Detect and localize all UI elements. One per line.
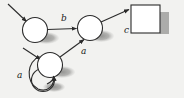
edge-label-a-mid: a	[81, 46, 86, 56]
node-q3[interactable]	[38, 53, 63, 78]
state-diagram-figure: b a a c	[0, 0, 184, 98]
edge-label-c: c	[124, 25, 129, 35]
edge-label-b: b	[61, 13, 67, 23]
edge-label-a-loop: a	[17, 70, 22, 80]
diagram-canvas: b a a c	[0, 0, 184, 98]
node-q2[interactable]	[78, 16, 103, 41]
node-q1[interactable]	[23, 18, 48, 43]
node-q5-accepting-square[interactable]	[131, 5, 160, 33]
